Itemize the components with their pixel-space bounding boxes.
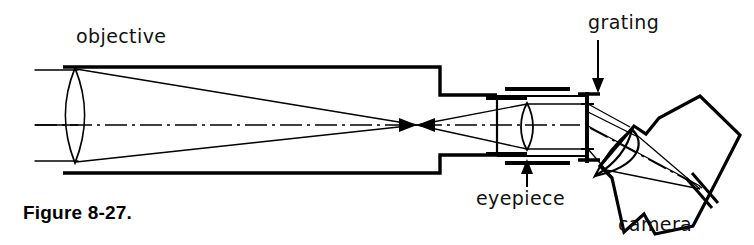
figure-caption: Figure 8-27. <box>23 203 132 222</box>
converging-cone <box>76 69 417 162</box>
grating <box>578 92 600 163</box>
incoming-parallel-rays <box>35 70 78 161</box>
objective-label: objective <box>76 27 166 46</box>
eyepiece-aperture-stops <box>486 89 570 163</box>
figure-container: objective grating eyepiece camera Figure… <box>0 0 754 245</box>
eyepiece-lens <box>521 103 533 150</box>
camera-label: camera <box>618 215 692 234</box>
objective-lens <box>65 68 85 163</box>
eyepiece-label: eyepiece <box>476 189 565 208</box>
grating-pointer-arrow <box>592 40 604 93</box>
collimator-housing <box>497 96 587 156</box>
collimated-beam <box>527 104 587 149</box>
grating-label: grating <box>588 13 659 32</box>
